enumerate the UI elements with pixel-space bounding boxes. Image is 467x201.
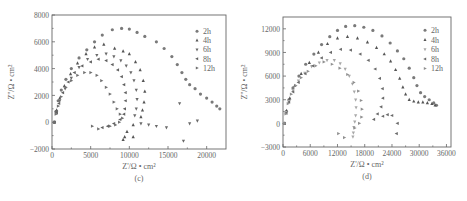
data-point xyxy=(119,59,122,62)
data-point xyxy=(419,91,422,94)
y-tick-label: 12000 xyxy=(261,25,280,34)
legend-item-4h: 4h xyxy=(424,36,440,45)
data-point xyxy=(182,140,185,143)
data-point xyxy=(394,68,397,71)
data-point xyxy=(424,67,427,70)
data-point xyxy=(101,34,104,37)
data-point xyxy=(210,101,213,104)
data-point xyxy=(113,47,116,50)
data-point xyxy=(73,71,76,74)
data-point xyxy=(93,40,96,43)
y-axis: −3000030006000900012000 xyxy=(261,25,286,152)
data-point xyxy=(354,98,357,101)
data-point xyxy=(358,52,361,55)
data-point xyxy=(199,92,202,95)
data-point xyxy=(109,125,112,128)
data-point xyxy=(105,53,108,56)
data-point xyxy=(118,118,121,121)
data-point xyxy=(66,80,69,83)
data-point xyxy=(408,98,411,101)
data-point xyxy=(412,76,415,79)
data-point xyxy=(64,78,67,81)
legend-item-6h: 6h xyxy=(424,45,440,54)
data-point xyxy=(196,30,199,33)
legend-label: 2h xyxy=(203,27,211,36)
data-point xyxy=(125,130,128,133)
data-point xyxy=(415,84,418,87)
data-point xyxy=(196,48,199,51)
data-point xyxy=(423,58,426,61)
legend-item-2h: 2h xyxy=(424,26,440,35)
data-point xyxy=(70,79,73,82)
y-tick-label: 3000 xyxy=(265,96,280,105)
data-point xyxy=(122,49,125,52)
data-point xyxy=(97,58,100,61)
legend-label: 4h xyxy=(431,36,439,45)
data-point xyxy=(100,79,103,82)
data-point xyxy=(398,77,401,80)
data-point xyxy=(360,99,363,102)
y-tick-label: 0 xyxy=(276,120,280,129)
data-point xyxy=(380,34,383,37)
data-point xyxy=(218,107,221,110)
data-point xyxy=(132,135,135,138)
data-point xyxy=(417,100,420,103)
data-point xyxy=(106,125,109,128)
data-series-group xyxy=(52,27,221,143)
x-tick-label: 10000 xyxy=(120,151,139,160)
data-point xyxy=(80,64,83,67)
x-tick-label: 20000 xyxy=(197,151,216,160)
x-axis-label: Z'/Ω • cm² xyxy=(350,160,384,169)
y-tick-label: 2000 xyxy=(34,92,49,101)
data-point xyxy=(381,87,384,90)
data-point xyxy=(132,79,135,82)
data-point xyxy=(326,42,329,45)
data-point xyxy=(424,29,427,32)
data-point xyxy=(65,86,68,89)
legend-label: 8h xyxy=(431,55,439,64)
data-point xyxy=(184,78,187,81)
legend-label: 12h xyxy=(431,64,443,73)
data-point xyxy=(143,89,146,92)
x-tick-label: 30000 xyxy=(410,149,429,158)
data-point xyxy=(118,121,121,124)
data-point xyxy=(89,60,92,63)
panel-label: (d) xyxy=(362,172,372,181)
data-point xyxy=(142,100,145,103)
data-point xyxy=(379,105,382,108)
series-12h xyxy=(283,60,364,139)
y-tick-label: −3000 xyxy=(261,143,280,152)
data-point xyxy=(426,101,429,104)
x-tick-label: 24000 xyxy=(383,149,402,158)
data-point xyxy=(119,113,122,116)
data-point xyxy=(91,125,94,128)
data-point xyxy=(142,79,145,82)
data-point xyxy=(344,25,347,28)
legend-label: 12h xyxy=(203,64,215,73)
data-point xyxy=(77,66,80,69)
data-point xyxy=(122,83,125,86)
data-point xyxy=(314,64,317,67)
data-point xyxy=(408,67,411,70)
data-point xyxy=(352,132,355,135)
data-point xyxy=(348,75,351,78)
x-tick-label: 0 xyxy=(281,149,285,158)
data-point xyxy=(424,48,427,51)
data-point xyxy=(139,122,142,125)
data-point xyxy=(195,57,198,60)
panel-label: (c) xyxy=(135,174,144,183)
legend-item-12h: 12h xyxy=(424,64,443,73)
data-point xyxy=(336,36,339,39)
data-point xyxy=(339,48,342,51)
data-point xyxy=(336,29,339,32)
data-point xyxy=(129,71,132,74)
data-point xyxy=(123,107,126,110)
data-point xyxy=(351,135,354,138)
data-point xyxy=(196,39,199,42)
data-point xyxy=(396,122,399,125)
data-point xyxy=(70,67,73,70)
data-point xyxy=(188,83,191,86)
y-tick-label: 6000 xyxy=(34,38,49,47)
data-point xyxy=(83,71,86,74)
x-tick-label: 0 xyxy=(50,151,54,160)
